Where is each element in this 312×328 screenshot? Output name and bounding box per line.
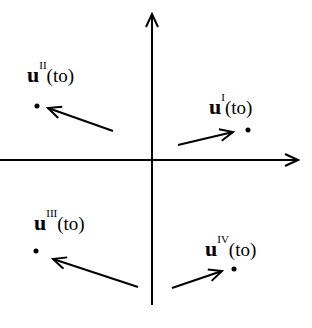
vector-arrow-IV [172,271,222,288]
point-IV [232,267,237,272]
label-symbol: u [209,94,221,119]
label-argument: (to) [47,65,74,86]
label-symbol: u [34,210,46,235]
label-superscript: IV [217,233,229,245]
vector-arrow-I [178,132,233,145]
label-superscript: I [221,91,225,103]
label-argument: (to) [229,239,256,260]
label-quadrant-II: uII(to) [27,64,74,86]
label-superscript: II [39,59,46,71]
label-symbol: u [27,62,39,87]
point-I [246,128,251,133]
label-symbol: u [205,236,217,261]
vector-arrow-III [53,259,138,287]
point-II [35,104,40,109]
label-quadrant-I: uI(to) [209,96,252,118]
label-quadrant-IV: uIV(to) [205,238,256,260]
point-III [34,249,39,254]
vector-arrow-II [48,108,113,131]
label-argument: (to) [225,97,252,118]
diagram-canvas [0,0,312,328]
label-quadrant-III: uIII(to) [34,212,85,234]
label-superscript: III [46,207,57,219]
label-argument: (to) [57,213,84,234]
